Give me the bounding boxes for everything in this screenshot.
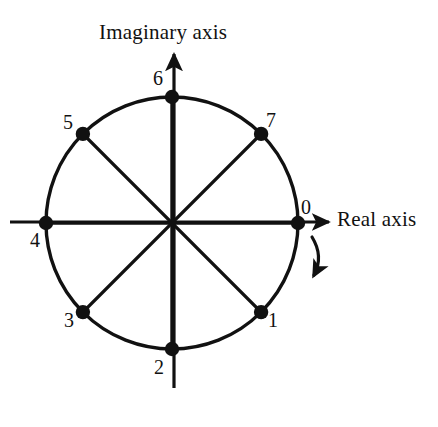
- point-label-3: 3: [64, 310, 74, 330]
- point-label-7: 7: [266, 110, 276, 130]
- point-marker-1: [254, 305, 268, 319]
- figure-canvas: Imaginary axis Real axis 0 1 2 3 4 5 6 7: [0, 0, 438, 427]
- point-marker-5: [76, 127, 90, 141]
- real-axis-title: Real axis: [337, 207, 416, 232]
- point-label-5: 5: [63, 112, 73, 132]
- point-label-1: 1: [268, 310, 278, 330]
- point-marker-4: [39, 216, 53, 230]
- point-label-2: 2: [154, 357, 164, 377]
- point-marker-3: [76, 305, 90, 319]
- point-marker-6: [165, 90, 179, 104]
- point-label-4: 4: [30, 230, 40, 250]
- clockwise-rotation-arrow: [312, 237, 319, 275]
- imaginary-axis-title: Imaginary axis: [99, 20, 227, 45]
- point-marker-2: [165, 342, 179, 356]
- point-label-0: 0: [301, 197, 311, 217]
- point-label-6: 6: [153, 68, 163, 88]
